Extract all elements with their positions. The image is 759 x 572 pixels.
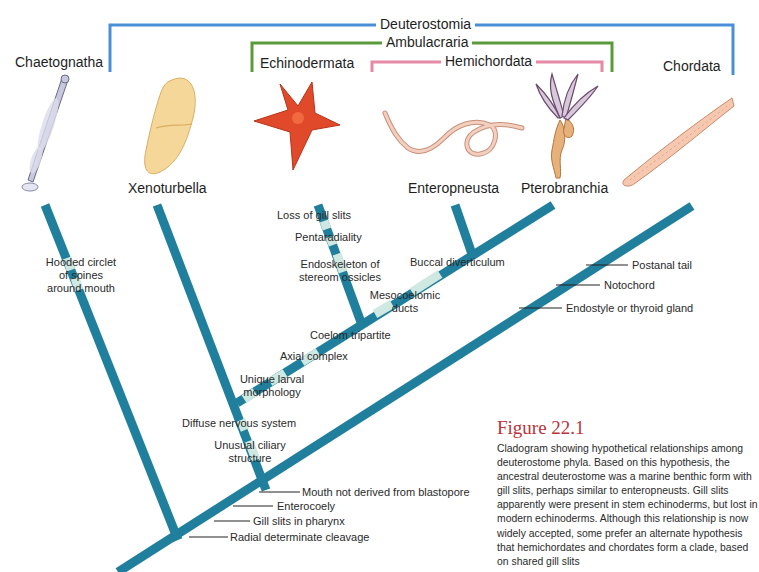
taxon-echinodermata: Echinodermata (260, 55, 354, 71)
clade-ambulacraria-label: Ambulacraria (382, 34, 472, 50)
taxon-pterobranchia: Pterobranchia (521, 180, 608, 196)
char-hooded-circlet: Hooded circlet of spines around mouth (26, 256, 136, 295)
char-notochord: Notochord (604, 279, 655, 292)
arrow-worm-illustration (22, 75, 69, 191)
clade-hemichordata-label: Hemichordata (441, 53, 536, 69)
pterobranch-illustration (536, 74, 598, 178)
taxon-chaetognatha: Chaetognatha (15, 54, 103, 70)
char-gill-slits-pharynx: Gill slits in pharynx (253, 515, 345, 528)
figure-title: Figure 22.1 (497, 417, 585, 439)
xenoturbella-illustration (145, 78, 196, 174)
taxon-enteropneusta: Enteropneusta (408, 180, 499, 196)
char-radial-cleavage: Radial determinate cleavage (230, 531, 369, 544)
figure-caption: Cladogram showing hypothetical relations… (497, 442, 759, 569)
clade-deuterostomia-label: Deuterostomia (376, 16, 475, 32)
char-mouth-not-blastopore: Mouth not derived from blastopore (302, 486, 470, 499)
char-buccal-diverticulum: Buccal diverticulum (410, 256, 505, 269)
taxon-xenoturbella: Xenoturbella (128, 180, 207, 196)
lancelet-illustration (623, 98, 734, 186)
char-endoskeleton: Endoskeleton of stereom ossicles (295, 258, 385, 284)
deuterostomia-bracket (110, 25, 733, 75)
char-endostyle: Endostyle or thyroid gland (566, 302, 693, 315)
taxon-chordata: Chordata (663, 58, 721, 74)
char-pentaradiality: Pentaradiality (295, 231, 362, 244)
sea-star-illustration (254, 82, 340, 170)
char-diffuse-nervous: Diffuse nervous system (182, 417, 296, 430)
char-enterocoely: Enterocoely (277, 500, 335, 513)
char-postanal-tail: Postanal tail (632, 259, 692, 272)
branch-enteropneusta (455, 205, 472, 254)
char-mesocoelomic-ducts: Mesocoelomic ducts (365, 289, 445, 315)
char-loss-gill-slits: Loss of gill slits (277, 209, 351, 222)
acorn-worm-illustration (385, 113, 522, 154)
char-coelom-tripartite: Coelom tripartite (310, 329, 391, 342)
char-axial-complex: Axial complex (280, 350, 348, 363)
char-unique-larval: Unique larval morphology (232, 373, 312, 399)
char-unusual-ciliary: Unusual ciliary structure (205, 439, 295, 465)
